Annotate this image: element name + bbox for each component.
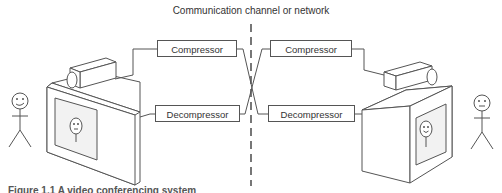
- link-left-compressor-to-right-decompressor: [237, 49, 268, 114]
- link-right-compressor-to-camera: [352, 49, 384, 75]
- right-person-icon: [471, 95, 493, 149]
- right-compressor-box: Compressor: [270, 40, 352, 57]
- left-decompressor-box: Decompressor: [155, 105, 240, 122]
- figure-caption: Figure 1.1 A video conferencing system: [8, 185, 196, 193]
- right-monitor: [362, 86, 452, 183]
- right-camera: [384, 62, 437, 90]
- left-monitor: [47, 72, 140, 185]
- link-left-tv-to-decompressor: [140, 114, 155, 117]
- link-left-decompressor-to-right-compressor: [240, 49, 270, 114]
- diagram-canvas: [0, 0, 502, 193]
- link-left-camera-to-compressor: [115, 49, 157, 79]
- right-decompressor-box: Decompressor: [268, 105, 355, 122]
- left-compressor-box: Compressor: [157, 40, 237, 57]
- channel-title: Communication channel or network: [0, 5, 502, 16]
- left-camera: [67, 58, 116, 88]
- left-person-icon: [9, 93, 31, 147]
